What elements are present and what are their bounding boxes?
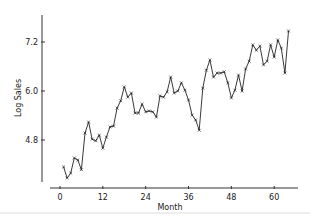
y-axis-label: Log Sales <box>14 79 23 117</box>
line-chart: 4.86.07.2 Log Sales 01224364860 Month <box>0 0 310 224</box>
x-axis-label: Month <box>157 203 182 212</box>
y-axis: 4.86.07.2 Log Sales <box>14 15 45 182</box>
y-tick-label: 6.0 <box>25 87 38 96</box>
x-tick-label: 36 <box>183 193 193 202</box>
x-tick-label: 48 <box>226 193 236 202</box>
series-line-log-sales <box>64 31 289 178</box>
x-tick-label: 12 <box>98 193 108 202</box>
x-tick-label: 60 <box>269 193 279 202</box>
x-tick-label: 24 <box>141 193 151 202</box>
x-tick-label: 0 <box>57 193 62 202</box>
x-axis: 01224364860 Month <box>50 186 298 212</box>
data-point-marker <box>255 49 258 52</box>
y-tick-label: 7.2 <box>25 38 38 47</box>
series-markers <box>62 30 290 180</box>
plot-area <box>62 30 290 180</box>
y-tick-label: 4.8 <box>25 136 38 145</box>
